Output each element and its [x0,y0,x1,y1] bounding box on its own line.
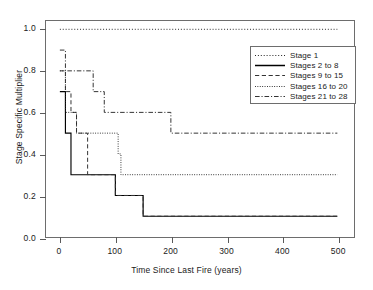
legend-line-swatch [255,82,285,91]
x-tick-label: 200 [151,246,191,256]
legend-item: Stage 1 [255,50,351,60]
legend-item-label: Stages 21 to 28 [290,92,348,101]
y-axis-title: Stage Specific Multiplier [14,42,24,192]
x-tick-label: 400 [262,246,302,256]
x-tick-mark [339,237,340,243]
y-tick-mark [40,113,46,114]
y-tick-label: 0.0 [6,233,36,243]
legend-line-swatch [255,71,285,80]
legend-item: Stages 2 to 8 [255,60,351,70]
legend-item-label: Stage 1 [290,51,318,60]
x-tick-label: 0 [39,246,79,256]
y-tick-label: 1.0 [6,23,36,33]
y-tick-mark [40,71,46,72]
series-line [60,92,337,217]
y-tick-mark [40,29,46,30]
legend-line-swatch [255,51,285,60]
legend-item: Stages 21 to 28 [255,92,351,102]
x-axis-title: Time Since Last Fire (years) [0,265,373,275]
x-tick-label: 500 [318,246,358,256]
y-tick-label: 0.2 [6,191,36,201]
x-tick-label: 300 [207,246,247,256]
legend-item-label: Stages 9 to 15 [290,71,343,80]
x-tick-mark [283,237,284,243]
legend-item-label: Stages 2 to 8 [290,61,338,70]
y-tick-mark [40,239,46,240]
legend-item: Stages 9 to 15 [255,71,351,81]
legend-line-swatch [255,61,285,70]
x-tick-mark [172,237,173,243]
x-tick-mark [228,237,229,243]
chart-figure: 0.00.20.40.60.81.0 0100200300400500 Time… [0,0,373,290]
legend-item-label: Stages 16 to 20 [290,82,348,91]
x-tick-mark [116,237,117,243]
legend-item: Stages 16 to 20 [255,81,351,91]
x-tick-label: 100 [95,246,135,256]
x-tick-mark [60,237,61,243]
chart-legend: Stage 1Stages 2 to 8Stages 9 to 15Stages… [250,46,356,104]
y-tick-mark [40,197,46,198]
y-tick-mark [40,155,46,156]
legend-line-swatch [255,92,285,101]
